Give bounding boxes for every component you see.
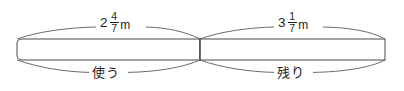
upper-leader-lines <box>17 27 385 39</box>
leader-right-caption-start <box>200 60 274 72</box>
right-measure-unit: m <box>297 19 308 31</box>
right-measure-label: 3 1 7 m <box>278 11 308 34</box>
tape-segment-right <box>200 39 385 60</box>
tape-diagram-graphic <box>0 0 404 91</box>
tape-segment-left <box>17 39 200 60</box>
right-segment-caption: 残り <box>277 66 304 79</box>
leader-right-caption-end <box>313 60 385 72</box>
right-measure-fraction: 1 7 <box>288 11 297 34</box>
left-segment-caption: 使う <box>92 66 119 79</box>
left-measure-numerator: 4 <box>111 11 117 22</box>
leader-right-measure-end <box>323 27 385 39</box>
lower-leader-lines <box>17 60 385 72</box>
leader-left-measure-start <box>17 27 96 39</box>
tape-bar <box>17 39 385 60</box>
right-measure-whole: 3 <box>278 16 287 30</box>
tape-diagram-figure: 2 4 7 m 3 1 7 m 使う 残り <box>0 0 404 91</box>
leader-left-caption-start <box>17 60 89 72</box>
leader-right-measure-start <box>200 27 274 39</box>
leader-left-caption-end <box>128 60 200 72</box>
left-measure-fraction: 4 7 <box>110 11 119 34</box>
right-measure-denominator: 7 <box>289 23 295 34</box>
left-measure-label: 2 4 7 m <box>100 11 130 34</box>
left-measure-unit: m <box>119 19 130 31</box>
left-measure-denominator: 7 <box>111 23 117 34</box>
right-measure-numerator: 1 <box>289 11 295 22</box>
left-measure-whole: 2 <box>100 16 109 30</box>
leader-left-measure-end <box>146 27 200 39</box>
